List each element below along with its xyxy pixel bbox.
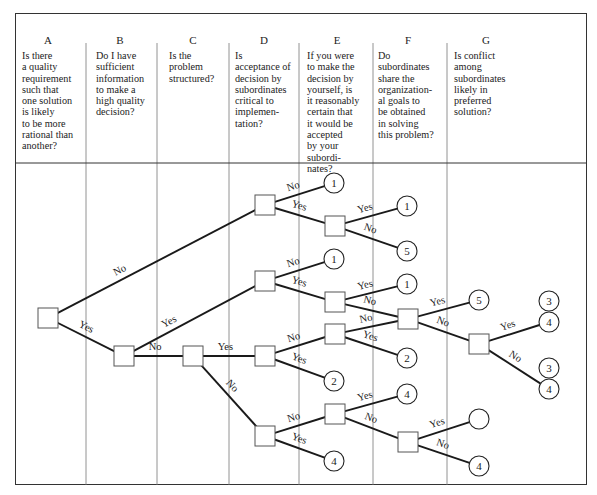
outcome-node: 2 [324,371,344,391]
outcome-node: 1 [324,173,344,193]
decision-node-e2 [325,292,345,312]
outcome-node: 3 [539,358,559,378]
decision-node-e1 [325,216,345,236]
outcome-node [469,409,489,429]
outcome-label: 2 [404,352,410,364]
edge-label: Yes [499,317,517,332]
edge-label: Yes [290,431,308,447]
decision-node-e3 [325,324,345,344]
edge-label: Yes [429,294,447,309]
outcome-label: 4 [476,460,482,472]
edge-label: No [507,348,524,364]
decision-node-e4 [325,404,345,424]
outcome-node: 4 [397,384,417,404]
decision-node-f1 [398,309,418,329]
edge-label: No [363,294,378,308]
edge-label: No [111,262,127,278]
decision-node-d1 [255,195,275,215]
outcome-label: 5 [476,294,482,306]
outcome-node: 1 [397,274,417,294]
outcome-label: 4 [331,455,337,467]
outcome-label: 3 [546,295,552,307]
decision-node-f2 [398,432,418,452]
edge-label: Yes [218,341,233,352]
edge-label: Yes [290,351,308,367]
outcome-label: 2 [331,375,337,387]
edge-label: Yes [356,277,373,291]
edge-labels: NoYesYesNoYesNoNoYesYesNoNoYesYesNoNoYes… [77,179,524,451]
edge-label: No [435,437,451,452]
outcome-node: 2 [397,348,417,368]
outcome-label: 5 [404,245,410,257]
outcome-circle [469,409,489,429]
decision-node-d4 [255,426,275,446]
edge-label: No [149,341,162,352]
outcome-label: 1 [404,278,410,290]
edge-label: Yes [160,313,179,330]
decision-node-g1 [469,334,489,354]
decision-tree: NoYesYesNoYesNoNoYesYesNoNoYesYesNoNoYes… [0,0,597,495]
edge-label: No [363,410,379,425]
outcome-node: 4 [324,451,344,471]
outcome-label: 3 [546,362,552,374]
outcome-label: 1 [331,253,337,265]
outcome-node: 1 [324,249,344,269]
outcome-label: 1 [404,200,410,212]
decision-node-d3 [255,346,275,366]
edge-label: No [224,377,241,394]
outcome-label: 4 [404,388,410,400]
edge-label: Yes [290,198,308,213]
edge-label: No [359,311,374,324]
decision-node-c [183,346,203,366]
decision-tree-diagram: A Is there a quality requirement such th… [0,0,597,495]
edge-label: Yes [356,389,374,404]
outcome-node: 3 [539,291,559,311]
outcome-node: 5 [397,241,417,261]
decision-node-b [114,346,134,366]
edge-label: Yes [361,328,379,343]
outcome-node: 1 [397,196,417,216]
outcome-node: 4 [539,379,559,399]
outcome-node: 5 [469,290,489,310]
edge-label: Yes [428,415,446,430]
decision-node-a [38,308,58,328]
column-dividers [86,43,447,485]
edge-label: Yes [77,318,96,335]
edge-label: Yes [290,274,308,289]
outcome-label: 4 [546,316,552,328]
outcome-label: 1 [331,177,337,189]
outcome-node: 4 [469,456,489,476]
decision-node-d2 [255,271,275,291]
edge-label: No [363,221,379,236]
edge-label: No [435,314,451,329]
edge-label: Yes [356,201,374,216]
outcome-node: 4 [539,312,559,332]
outcome-label: 4 [546,383,552,395]
